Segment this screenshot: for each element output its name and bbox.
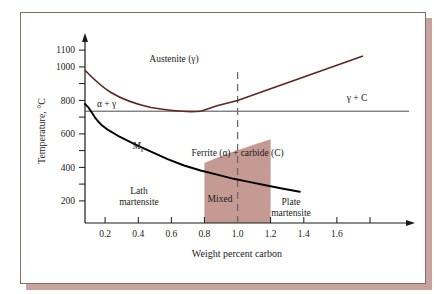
x-tick-label-0-2: 0.2 (99, 229, 111, 239)
y-axis-arrow (82, 33, 88, 42)
y-tick-label-400: 400 (61, 163, 76, 173)
label-alpha-plus-gamma: α + γ (97, 99, 116, 109)
y-tick-label-1100: 1100 (56, 45, 75, 55)
label-ms: Ms (132, 141, 144, 154)
label-austenite: Austenite (γ) (149, 54, 198, 65)
y-axis-title: Temperature, °C (36, 98, 47, 164)
label-gamma-plus-carbide: γ + C (346, 93, 368, 103)
label-plate-martensite-line1: Plate (282, 197, 301, 207)
phase-diagram-chart: 1100 1000 800 600 400 200 0.2 (21, 13, 425, 283)
y-tick-label-200: 200 (61, 196, 76, 206)
x-tick-labels: 0.2 0.4 0.6 0.8 1.0 1.2 1.4 1.6 (99, 229, 343, 239)
x-tick-label-0-6: 0.6 (165, 229, 177, 239)
x-tick-label-0-4: 0.4 (132, 229, 144, 239)
x-axis-arrow (406, 220, 415, 226)
label-lath-martensite-line2: martensite (119, 197, 159, 207)
label-plate-martensite-line2: martensite (271, 208, 311, 218)
x-tick-label-1-4: 1.4 (298, 229, 310, 239)
y-tick-marks (79, 50, 85, 201)
x-tick-label-1-6: 1.6 (331, 229, 343, 239)
y-tick-label-800: 800 (61, 96, 76, 106)
ms-curve-main (85, 104, 171, 172)
label-ms-subscript: s (141, 146, 144, 154)
x-tick-label-1-0: 1.0 (232, 229, 244, 239)
figure-plate: 1100 1000 800 600 400 200 0.2 (20, 12, 426, 284)
region-annotations: Austenite (γ) α + γ γ + C Ferrite (α) + … (97, 54, 367, 218)
figure-root: 1100 1000 800 600 400 200 0.2 (0, 0, 434, 294)
y-tick-labels: 1100 1000 800 600 400 200 (56, 45, 75, 206)
label-lath-martensite-line1: Lath (130, 186, 148, 196)
x-tick-label-1-2: 1.2 (265, 229, 277, 239)
x-axis-title: Weight percent carbon (192, 248, 282, 259)
acm-boundary-curve (201, 56, 363, 111)
y-tick-label-1000: 1000 (56, 62, 75, 72)
label-ferrite-plus-carbide: Ferrite (α) + carbide (C) (192, 148, 284, 159)
y-tick-label-600: 600 (61, 129, 76, 139)
label-mixed: Mixed (208, 194, 233, 204)
x-tick-label-0-8: 0.8 (198, 229, 210, 239)
